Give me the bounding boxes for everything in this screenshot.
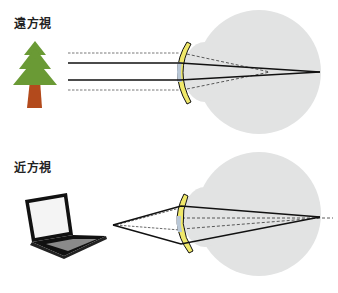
eyeball-near	[183, 152, 321, 276]
laptop-icon	[25, 193, 107, 259]
far-vision-panel	[13, 10, 321, 134]
near-vision-panel	[25, 152, 333, 276]
eyeball-far	[183, 10, 321, 134]
vision-diagram	[0, 0, 338, 293]
tree-icon	[13, 41, 57, 108]
